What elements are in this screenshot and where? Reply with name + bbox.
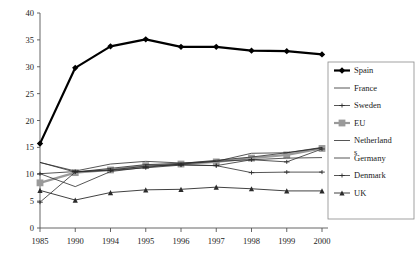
x-tick-label: 1990 — [67, 236, 84, 246]
x-tick-label: 1999 — [278, 236, 295, 246]
y-tick-label: 0 — [30, 223, 34, 233]
legend-label: Sweden — [354, 100, 382, 110]
x-tick-label: 1995 — [137, 236, 154, 246]
x-tick-label: 1985 — [32, 236, 49, 246]
x-tick-label: 1996 — [173, 236, 190, 246]
y-tick-label: 35 — [26, 35, 35, 45]
x-tick-label: 1997 — [208, 236, 225, 246]
legend-label: EU — [354, 118, 365, 128]
legend-label: Germany — [354, 153, 386, 163]
legend-label: France — [354, 83, 377, 93]
y-tick-label: 40 — [26, 8, 35, 18]
x-tick-label: 2000 — [314, 236, 331, 246]
x-tick-label: 1998 — [243, 236, 260, 246]
data-point-marker — [37, 179, 44, 186]
legend-label: Denmark — [354, 170, 386, 180]
y-tick-label: 25 — [26, 89, 35, 99]
legend-label: Spain — [354, 65, 374, 75]
legend-label: Netherland — [354, 135, 393, 145]
y-tick-label: 30 — [26, 62, 35, 72]
y-tick-label: 20 — [26, 116, 35, 126]
y-tick-label: 5 — [30, 196, 34, 206]
legend-label: UK — [354, 188, 367, 198]
chart-legend: SpainFranceSwedenEUNetherlandsGermanyDen… — [328, 62, 414, 219]
y-tick-label: 10 — [26, 169, 35, 179]
y-tick-label: 15 — [26, 142, 35, 152]
chart-canvas: 0510152025303540 19851990199419951996199… — [0, 0, 416, 264]
data-point-marker — [339, 120, 346, 127]
x-tick-label: 1994 — [102, 236, 120, 246]
line-chart: 0510152025303540 19851990199419951996199… — [0, 0, 416, 264]
